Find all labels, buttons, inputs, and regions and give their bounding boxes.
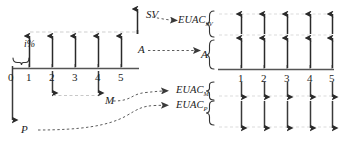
right-tick-3: 3 [284,73,290,84]
right-flow-euac-m [242,82,333,97]
euac-sv-subscript: SV [205,20,212,27]
right-a-label: A [201,49,208,60]
interest-rate-label: i% [24,39,35,49]
present-cost-label: P [21,124,28,135]
left-tick-2: 2 [49,72,55,83]
euac-sv-label: EUACSV [178,15,213,28]
left-tick-0: 0 [8,72,14,83]
right-flow-euac-sv [242,14,333,34]
euac-p-subscript: P [203,105,207,112]
left-tick-1: 1 [26,72,32,83]
euac-p-base: EUAC [176,99,203,110]
salvage-value-label: SV [146,9,158,20]
right-flow-euac-p [242,101,333,128]
diagram-canvas: i% SV A M P 0 1 2 3 4 5 EUACSV A EUACM E… [0,0,339,146]
left-flow-A [30,36,122,67]
left-tick-3: 3 [72,72,78,83]
right-tick-1: 1 [238,73,244,84]
connector-m-to-euac-m [113,91,168,101]
right-flow-a [242,38,333,68]
left-tick-5: 5 [118,72,124,83]
euac-m-base: EUAC [176,84,203,95]
maintenance-label: M [105,95,114,106]
right-tick-5: 5 [329,73,335,84]
right-timeline-axis [218,65,334,70]
right-tick-4: 4 [307,73,313,84]
euac-m-label: EUACM [176,85,209,98]
interest-brace [13,58,29,65]
euac-sv-base: EUAC [178,14,205,25]
left-tick-4: 4 [95,72,101,83]
annual-benefit-label: A [138,44,145,55]
euac-m-subscript: M [203,90,208,97]
euac-p-label: EUACP [176,100,207,113]
right-tick-2: 2 [261,73,267,84]
connector-p-to-euac-p [38,105,168,130]
